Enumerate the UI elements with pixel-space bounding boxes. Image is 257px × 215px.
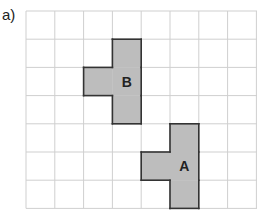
- grid-diagram: BA: [0, 0, 257, 215]
- shape-label: B: [122, 74, 132, 90]
- shape-a: A: [141, 124, 199, 209]
- shape-label: A: [179, 158, 189, 174]
- shape-b: B: [84, 39, 142, 124]
